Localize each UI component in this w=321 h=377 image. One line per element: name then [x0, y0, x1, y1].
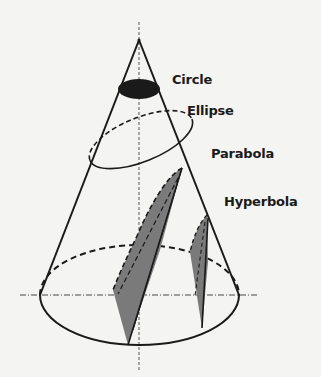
conic-sections-diagram: Circle Ellipse Parabola Hyperbola	[0, 0, 321, 377]
label-parabola: Parabola	[211, 146, 274, 161]
parabola-section	[113, 168, 182, 345]
label-ellipse: Ellipse	[187, 103, 234, 118]
circle-section	[118, 79, 160, 99]
cone-apex	[138, 39, 141, 42]
cone-figure	[0, 0, 321, 377]
label-hyperbola: Hyperbola	[224, 194, 298, 209]
label-circle: Circle	[172, 72, 212, 87]
